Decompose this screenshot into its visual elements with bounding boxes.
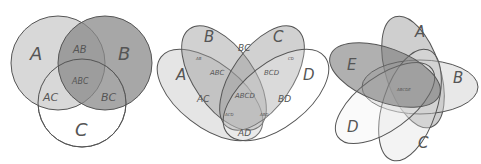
label-d: D [303, 66, 315, 84]
region-ac: AC [42, 91, 59, 104]
region-bc: BC [238, 43, 251, 53]
five-set-venn: A B C D E ABCDE [321, 8, 478, 164]
label-a: A [175, 66, 186, 84]
label-a: A [414, 23, 425, 41]
region-bc: BC [101, 91, 117, 104]
label-b: B [118, 43, 130, 64]
three-set-venn: A B C AB ABC AC BC [11, 16, 152, 147]
label-c: C [418, 134, 429, 152]
region-ab: AB [195, 56, 202, 61]
region-abd: ABD [259, 112, 269, 117]
label-d: D [347, 118, 359, 136]
region-ac: AC [196, 94, 210, 104]
region-acd: ACD [224, 112, 234, 117]
label-a: A [29, 43, 42, 64]
four-set-venn: A B C D BC AB CD ABC BCD AC ABCD BD ACD … [141, 12, 344, 159]
venn-diagrams: A B C AB ABC AC BC A B C D BC AB CD ABC … [0, 0, 481, 164]
region-bd: BD [278, 94, 291, 104]
label-e: E [347, 56, 357, 74]
region-abcde: ABCDE [396, 87, 411, 92]
region-bcd: BCD [264, 69, 280, 77]
label-c: C [273, 28, 284, 46]
region-ad: AD [237, 128, 251, 138]
region-abc: ABC [71, 77, 89, 86]
label-c: C [75, 119, 88, 140]
region-ab: AB [72, 44, 87, 55]
region-abcd: ABCD [234, 92, 255, 100]
label-b: B [453, 69, 463, 87]
label-b: B [204, 28, 214, 46]
region-abc: ABC [209, 69, 225, 77]
region-cd: CD [288, 56, 294, 61]
